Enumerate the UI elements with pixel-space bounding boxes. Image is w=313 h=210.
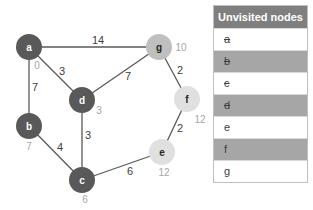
node-label: g [156, 42, 162, 53]
node-label: b [26, 121, 32, 132]
table-row: f [214, 138, 307, 160]
node-f: f12 [174, 86, 206, 125]
edge-weight-g-f: 2 [177, 64, 183, 76]
edge-weight-f-e: 2 [177, 122, 183, 134]
table-row: c [214, 72, 307, 94]
unvisited-nodes-table: Unvisited nodes abcdefg [213, 5, 308, 183]
edge-weight-b-c: 4 [57, 141, 63, 153]
table-row: g [214, 160, 307, 182]
node-name: a [224, 33, 230, 45]
edge-weight-a-d: 3 [59, 65, 65, 77]
dijkstra-graph: 1437723426 a0g10d3f12b7e12c6 [0, 0, 210, 210]
edge-weight-d-c: 3 [85, 129, 91, 141]
node-distance: 6 [82, 194, 88, 205]
node-name: e [224, 121, 230, 133]
node-distance: 12 [158, 167, 170, 178]
edge-weight-a-g: 14 [92, 34, 104, 46]
node-distance: 0 [34, 60, 40, 71]
node-name: f [224, 143, 227, 155]
edge-g-d [82, 47, 159, 100]
node-label: c [79, 175, 85, 186]
table-row: b [214, 50, 307, 72]
table-row: a [214, 28, 307, 50]
node-g: g10 [146, 34, 187, 60]
table-row: d [214, 94, 307, 116]
node-name: c [224, 77, 230, 89]
node-distance: 10 [175, 42, 187, 53]
node-label: e [159, 147, 165, 158]
node-name: b [224, 55, 230, 67]
edge-weight-g-d: 7 [125, 70, 131, 82]
table-rows: abcdefg [214, 28, 307, 182]
node-e: e12 [149, 139, 175, 178]
table-header: Unvisited nodes [214, 6, 307, 28]
node-label: d [79, 95, 85, 106]
node-distance: 3 [96, 105, 102, 116]
edge-weight-a-b: 7 [32, 81, 38, 93]
node-distance: 7 [26, 141, 32, 152]
node-distance: 12 [194, 114, 206, 125]
node-name: g [224, 165, 230, 177]
node-b: b7 [16, 113, 42, 152]
node-name: d [224, 99, 230, 111]
node-d: d3 [69, 87, 102, 116]
table-row: e [214, 116, 307, 138]
edge-weight-c-e: 6 [127, 165, 133, 177]
node-label: a [26, 42, 32, 53]
node-c: c6 [69, 167, 95, 205]
